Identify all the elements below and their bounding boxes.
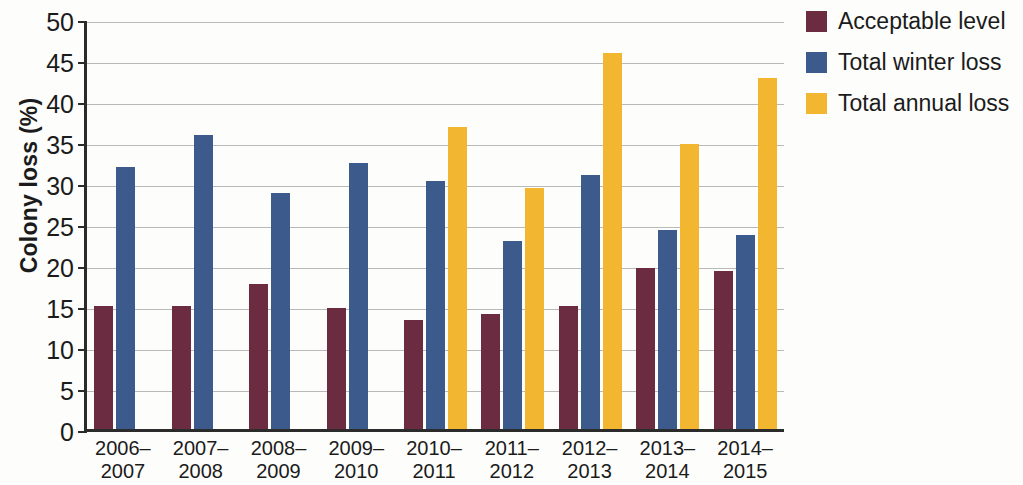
chart-legend: Acceptable levelTotal winter lossTotal a…	[806, 8, 1009, 117]
bar-annual	[448, 127, 467, 429]
bar-winter	[658, 230, 677, 429]
bar-group	[164, 22, 241, 429]
x-axis-label-line: 2009	[240, 460, 318, 483]
bar-annual	[525, 188, 544, 429]
legend-item: Acceptable level	[806, 8, 1009, 35]
x-axis-label-line: 2006–	[84, 437, 162, 460]
bar-winter	[736, 235, 755, 429]
bar-group	[319, 22, 396, 429]
y-tick-label-20: 20	[46, 254, 74, 283]
bar-annual	[603, 53, 622, 429]
bar-group	[474, 22, 551, 429]
y-tick-label-5: 5	[60, 377, 74, 406]
legend-swatch-icon	[806, 52, 827, 73]
y-tick-mark-50	[78, 21, 87, 23]
bar-winter	[581, 175, 600, 429]
bar-group	[629, 22, 706, 429]
x-axis-label: 2009–2010	[317, 437, 395, 483]
x-axis-label-line: 2015	[706, 460, 784, 483]
x-axis-label: 2006–2007	[84, 437, 162, 483]
x-axis-label: 2014–2015	[706, 437, 784, 483]
bar-winter	[271, 193, 290, 429]
bar-acceptable	[172, 306, 191, 429]
bar-acceptable	[714, 271, 733, 429]
x-axis-label: 2010–2011	[395, 437, 473, 483]
bar-annual	[680, 144, 699, 429]
x-axis-label-line: 2009–	[317, 437, 395, 460]
x-axis-label-line: 2008–	[240, 437, 318, 460]
bar-winter	[503, 241, 522, 429]
gridline-0: 0	[87, 432, 784, 433]
x-axis-label-line: 2007	[84, 460, 162, 483]
bar-winter	[116, 167, 135, 429]
y-tick-mark-20	[78, 267, 87, 269]
y-tick-label-15: 15	[46, 295, 74, 324]
bar-acceptable	[249, 284, 268, 429]
x-axis-label-line: 2011	[395, 460, 473, 483]
x-axis-labels: 2006–20072007–20082008–20092009–20102010…	[84, 437, 784, 483]
y-axis-title: Colony loss (%)	[16, 61, 43, 311]
x-axis-label: 2013–2014	[628, 437, 706, 483]
y-tick-mark-30	[78, 185, 87, 187]
y-tick-mark-40	[78, 103, 87, 105]
legend-swatch-icon	[806, 11, 827, 32]
x-axis-label-line: 2013	[551, 460, 629, 483]
bar-winter	[426, 181, 445, 429]
x-axis-label-line: 2014	[628, 460, 706, 483]
legend-item: Total winter loss	[806, 49, 1009, 76]
legend-label: Acceptable level	[838, 8, 1006, 35]
x-axis-label-line: 2010–	[395, 437, 473, 460]
y-tick-label-40: 40	[46, 90, 74, 119]
legend-label: Total winter loss	[838, 49, 1002, 76]
y-tick-mark-5	[78, 390, 87, 392]
y-tick-label-25: 25	[46, 213, 74, 242]
legend-swatch-icon	[806, 93, 827, 114]
y-tick-mark-45	[78, 62, 87, 64]
y-tick-mark-35	[78, 144, 87, 146]
x-axis-label-line: 2010	[317, 460, 395, 483]
x-axis-label: 2008–2009	[240, 437, 318, 483]
bar-winter	[349, 163, 368, 430]
x-axis-label: 2012–2013	[551, 437, 629, 483]
y-tick-label-50: 50	[46, 8, 74, 37]
bar-group	[552, 22, 629, 429]
y-tick-label-30: 30	[46, 172, 74, 201]
x-axis-label-line: 2012	[473, 460, 551, 483]
y-tick-mark-25	[78, 226, 87, 228]
bar-group	[397, 22, 474, 429]
x-axis-label-line: 2012–	[551, 437, 629, 460]
bar-acceptable	[404, 320, 423, 429]
bar-group	[707, 22, 784, 429]
bar-groups	[87, 22, 784, 429]
y-tick-mark-10	[78, 349, 87, 351]
x-axis-label-line: 2013–	[628, 437, 706, 460]
bar-group	[87, 22, 164, 429]
bar-winter	[194, 135, 213, 429]
x-axis-label: 2011–2012	[473, 437, 551, 483]
x-axis-label-line: 2011–	[473, 437, 551, 460]
x-axis-label-line: 2014–	[706, 437, 784, 460]
y-tick-label-35: 35	[46, 131, 74, 160]
bar-acceptable	[559, 306, 578, 429]
legend-item: Total annual loss	[806, 90, 1009, 117]
x-axis-label-line: 2007–	[162, 437, 240, 460]
bar-acceptable	[636, 268, 655, 429]
y-tick-label-10: 10	[46, 336, 74, 365]
y-tick-label-45: 45	[46, 49, 74, 78]
plot-area: 50454035302520151050	[84, 22, 784, 432]
y-tick-mark-15	[78, 308, 87, 310]
bar-acceptable	[481, 314, 500, 429]
y-tick-mark-0	[78, 431, 87, 433]
bar-acceptable	[94, 306, 113, 429]
legend-label: Total annual loss	[838, 90, 1009, 117]
bar-acceptable	[327, 308, 346, 429]
y-tick-label-0: 0	[60, 418, 74, 447]
colony-loss-bar-chart: Colony loss (%) 50454035302520151050 200…	[0, 0, 1023, 485]
x-axis-label-line: 2008	[162, 460, 240, 483]
bar-group	[242, 22, 319, 429]
x-axis-label: 2007–2008	[162, 437, 240, 483]
bar-annual	[758, 78, 777, 429]
